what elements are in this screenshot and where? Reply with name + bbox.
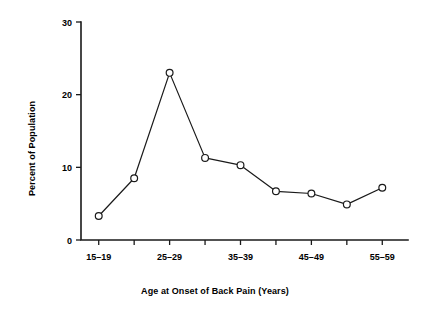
data-point xyxy=(237,162,244,169)
data-point xyxy=(131,175,138,182)
x-tick-label: 45–49 xyxy=(299,252,324,262)
y-tick-label: 0 xyxy=(67,236,72,246)
data-point xyxy=(166,69,173,76)
x-tick-label: 25–29 xyxy=(157,252,182,262)
data-point xyxy=(273,188,280,195)
x-tick-label: 15–19 xyxy=(86,252,111,262)
y-tick-label: 10 xyxy=(62,163,72,173)
data-point xyxy=(95,213,102,220)
axis-lines xyxy=(81,22,408,240)
axis-tick-marks xyxy=(76,22,382,245)
data-point xyxy=(308,190,315,197)
x-axis-tick-labels: 15–1925–2935–3945–4955–59 xyxy=(86,252,395,262)
data-series-line xyxy=(99,73,383,216)
y-tick-label: 30 xyxy=(62,18,72,28)
data-point xyxy=(202,154,209,161)
chart-container: Percent of Population 0102030 15–1925–29… xyxy=(0,0,430,310)
x-axis-title: Age at Onset of Back Pain (Years) xyxy=(0,286,430,296)
y-tick-label: 20 xyxy=(62,90,72,100)
y-axis-tick-labels: 0102030 xyxy=(62,18,72,246)
x-tick-label: 35–39 xyxy=(228,252,253,262)
data-point-markers xyxy=(95,69,385,219)
data-point xyxy=(343,201,350,208)
line-chart-plot: 0102030 15–1925–2935–3945–4955–59 xyxy=(0,0,430,310)
x-tick-label: 55–59 xyxy=(370,252,395,262)
data-point xyxy=(379,184,386,191)
